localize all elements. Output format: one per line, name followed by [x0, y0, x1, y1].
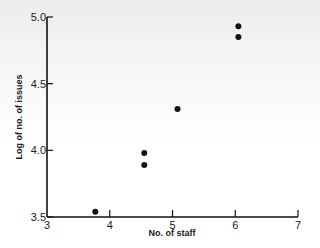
data-points: [92, 23, 241, 214]
x-tick-label: 7: [295, 219, 301, 231]
data-point: [235, 34, 241, 40]
data-point: [92, 209, 98, 215]
scatter-chart: 3.54.04.55.0 34567 No. of staff Log of n…: [0, 0, 315, 248]
y-tick-label: 4.5: [31, 78, 46, 90]
x-tick-label: 6: [232, 219, 238, 231]
y-axis-title: Log of no. of issues: [14, 75, 24, 160]
y-tick-label: 5.0: [31, 11, 46, 23]
data-point: [175, 106, 181, 112]
y-axis-ticks: 3.54.04.55.0: [31, 11, 53, 223]
data-point: [141, 162, 147, 168]
x-axis-title: No. of staff: [149, 228, 197, 238]
data-point: [235, 23, 241, 29]
y-tick-label: 4.0: [31, 144, 46, 156]
data-point: [141, 150, 147, 156]
axes: [47, 17, 298, 217]
x-tick-label: 3: [44, 219, 50, 231]
x-tick-label: 4: [107, 219, 113, 231]
